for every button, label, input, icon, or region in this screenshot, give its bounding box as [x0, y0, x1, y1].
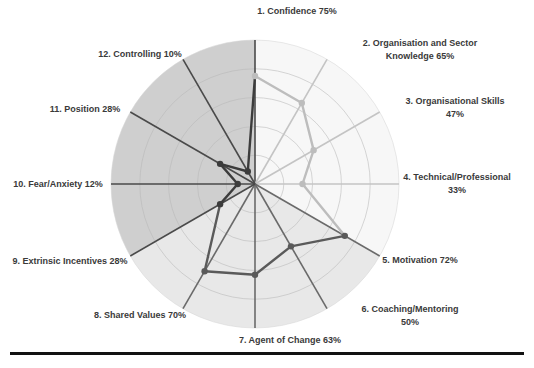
radar-chart: 1. Confidence 75%2. Organisation and Sec… [0, 0, 534, 368]
axis-label-line: 33% [448, 185, 466, 195]
axis-label-line: 8. Shared Values 70% [94, 310, 186, 320]
axis-label-line: 47% [446, 109, 464, 119]
axis-label-2: 2. Organisation and SectorKnowledge 65% [363, 38, 478, 61]
axis-label-6: 6. Coaching/Mentoring50% [361, 304, 458, 327]
axis-label-line: 6. Coaching/Mentoring [361, 304, 458, 314]
data-point-10 [235, 181, 241, 187]
data-point-11 [217, 161, 223, 167]
data-point-3 [310, 147, 316, 153]
data-point-1 [252, 73, 258, 79]
axis-label-line: 4. Technical/Professional [403, 172, 510, 182]
axis-label-3: 3. Organisational Skills47% [405, 96, 504, 119]
data-point-5 [342, 233, 348, 239]
axis-label-10: 10. Fear/Anxiety 12% [13, 179, 103, 189]
data-point-12 [245, 168, 251, 174]
horizontal-rule [10, 352, 524, 355]
axis-label-7: 7. Agent of Change 63% [239, 335, 341, 345]
axis-label-4: 4. Technical/Professional33% [403, 172, 510, 195]
axis-label-8: 8. Shared Values 70% [94, 310, 186, 320]
axis-label-1: 1. Confidence 75% [257, 6, 337, 16]
axis-label-5: 5. Motivation 72% [382, 255, 458, 265]
axis-label-line: 7. Agent of Change 63% [239, 335, 341, 345]
axis-label-line: 50% [401, 317, 419, 327]
axis-label-line: 12. Controlling 10% [98, 49, 182, 59]
data-point-7 [252, 272, 258, 278]
axis-label-line: 1. Confidence 75% [257, 6, 337, 16]
data-point-2 [299, 100, 305, 106]
axis-label-line: Knowledge 65% [386, 51, 455, 61]
axis-label-11: 11. Position 28% [50, 104, 121, 114]
data-point-4 [299, 181, 305, 187]
axis-label-9: 9. Extrinsic Incentives 28% [12, 256, 127, 266]
data-point-8 [201, 268, 207, 274]
axis-label-line: 11. Position 28% [50, 104, 121, 114]
data-point-6 [288, 243, 294, 249]
axis-label-line: 10. Fear/Anxiety 12% [13, 179, 103, 189]
axis-label-line: 5. Motivation 72% [382, 255, 458, 265]
data-point-9 [217, 201, 223, 207]
axis-label-line: 3. Organisational Skills [405, 96, 504, 106]
axis-label-line: 2. Organisation and Sector [363, 38, 478, 48]
axis-label-12: 12. Controlling 10% [98, 49, 182, 59]
axis-label-line: 9. Extrinsic Incentives 28% [12, 256, 127, 266]
